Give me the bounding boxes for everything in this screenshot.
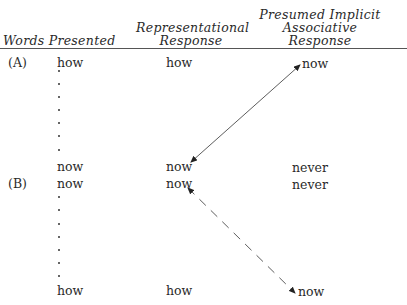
solid-double-arrow	[191, 65, 300, 162]
dashed-double-arrow	[188, 188, 295, 293]
association-arrows	[0, 0, 407, 305]
